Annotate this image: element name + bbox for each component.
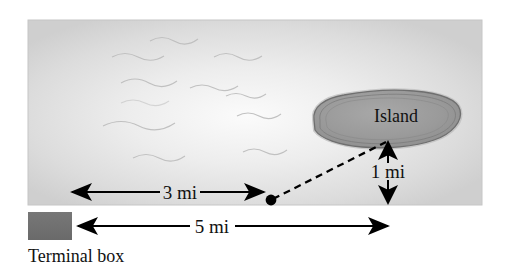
terminal-box-caption: Terminal box (28, 246, 124, 266)
island-label: Island (374, 106, 418, 126)
connection-point-dot (266, 195, 277, 206)
dimension-5mi: 5 mi (78, 216, 388, 237)
dimension-3mi-label: 3 mi (163, 182, 197, 203)
island-shape: Island (314, 90, 461, 148)
terminal-box-swatch (28, 212, 72, 240)
dimension-5mi-label: 5 mi (195, 216, 229, 237)
figure-diagram: Island 3 mi 1 mi 5 mi Terminal box (0, 0, 509, 275)
dimension-1mi-label: 1 mi (371, 161, 405, 182)
